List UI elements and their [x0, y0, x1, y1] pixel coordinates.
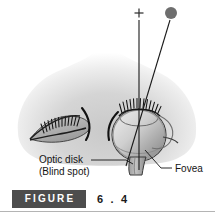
fovea-label: Fovea [175, 163, 203, 174]
cross-stimulus [135, 9, 144, 18]
figure-number: 6 . 4 [97, 190, 129, 208]
optic-disk-label-line1: Optic disk [39, 154, 84, 165]
figure-tag: FIGURE [12, 190, 86, 208]
optic-nerve [129, 157, 146, 175]
head-silhouette [18, 40, 196, 166]
caption-divider [0, 211, 215, 212]
eye-anatomy-illustration: Optic disk (Blind spot) Fovea [0, 0, 215, 185]
dot-stimulus [165, 7, 177, 19]
optic-disk-label-line2: (Blind spot) [39, 166, 90, 177]
figure-6-4: Optic disk (Blind spot) Fovea FIGURE 6 .… [0, 0, 215, 221]
figure-caption-bar: FIGURE 6 . 4 [0, 185, 215, 221]
